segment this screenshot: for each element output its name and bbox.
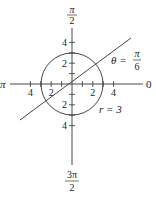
three-half-pi-denominator: 2: [70, 182, 75, 193]
v-tick-label: 2: [62, 99, 67, 110]
theta-label-lhs: θ =: [111, 54, 127, 66]
half-pi-numerator: π: [69, 4, 75, 15]
circle-label: r = 3: [99, 103, 122, 115]
theta-label-numerator: π: [134, 48, 140, 59]
polar-diagram: 42244224 0 π π 2 3π 2 θ = π 6 r = 3: [0, 0, 156, 202]
v-tick-label: 4: [62, 37, 67, 48]
theta-label-denominator: 6: [135, 61, 140, 72]
angle-label-zero: 0: [146, 78, 152, 90]
angle-label-pi: π: [0, 78, 6, 90]
h-tick-label: 2: [90, 87, 95, 98]
theta-label: θ = π 6: [111, 48, 141, 72]
h-tick-label: 2: [49, 87, 54, 98]
three-half-pi-numerator: 3π: [67, 169, 77, 180]
h-tick-label: 4: [28, 87, 33, 98]
half-pi-denominator: 2: [70, 15, 75, 26]
v-tick-label: 2: [62, 58, 67, 69]
h-tick-label: 4: [111, 87, 116, 98]
angle-label-three-half-pi: 3π 2: [65, 169, 79, 193]
angle-label-half-pi: π 2: [67, 4, 77, 26]
v-tick-label: 4: [62, 120, 67, 131]
